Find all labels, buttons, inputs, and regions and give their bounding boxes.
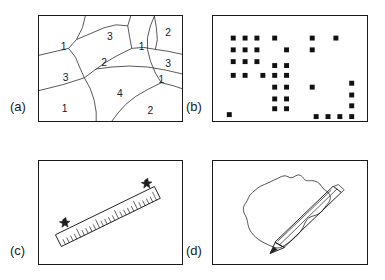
square-marker	[254, 36, 259, 41]
ruler-tick	[82, 230, 84, 235]
square-marker	[243, 36, 248, 41]
region-label: 2	[148, 105, 154, 116]
ruler-tick	[67, 238, 69, 243]
ruler-tick	[131, 206, 133, 211]
square-marker	[272, 63, 277, 68]
ruler-tick	[150, 197, 152, 202]
ruler-tick	[74, 234, 76, 239]
ruler-tick	[143, 201, 145, 206]
ruler-tick	[109, 217, 111, 222]
ruler-tick-group	[63, 192, 156, 244]
region-label: 3	[107, 31, 113, 42]
square-marker	[310, 47, 315, 52]
square-marker	[284, 63, 289, 68]
panel-label-d: (d)	[186, 243, 202, 258]
square-marker	[272, 106, 277, 111]
square-marker	[284, 85, 289, 90]
freehand-outline	[243, 175, 330, 248]
star-mark-lower-left	[60, 218, 70, 228]
ruler-tick	[93, 225, 95, 230]
ruler-tick	[128, 208, 130, 213]
ruler-tick	[77, 229, 81, 237]
region-label: 1	[61, 41, 67, 52]
square-marker	[254, 59, 259, 64]
ruler	[56, 187, 161, 247]
ruler-tick	[112, 216, 114, 221]
ruler-tick	[153, 192, 157, 200]
square-marker	[272, 85, 277, 90]
ruler-tick	[120, 212, 122, 217]
star-mark-upper-right	[141, 178, 151, 188]
square-marker	[272, 96, 277, 101]
panel-label-c: (c)	[10, 243, 25, 258]
square-marker	[231, 47, 236, 52]
square-marker	[349, 81, 354, 86]
region-label: 3	[63, 72, 69, 83]
square-marker	[284, 96, 289, 101]
square-marker	[231, 36, 236, 41]
square-marker	[272, 36, 277, 41]
ruler-tick	[139, 203, 141, 208]
ruler-tick	[134, 201, 138, 209]
square-marker	[349, 93, 354, 98]
ruler-tick	[124, 210, 126, 215]
square-marker	[333, 36, 338, 41]
region-label: 1	[139, 41, 145, 52]
square-marker	[243, 59, 248, 64]
square-marker	[349, 114, 354, 119]
square-marker	[243, 47, 248, 52]
square-marker	[260, 73, 265, 78]
square-marker	[310, 36, 315, 41]
ruler-tick	[63, 240, 65, 245]
panel-d-pencil-outline-scene	[213, 161, 367, 264]
ruler-tick	[105, 219, 107, 224]
square-marker	[227, 112, 232, 117]
region-label: 2	[165, 27, 171, 38]
panel-b-marker-scatter	[213, 16, 367, 121]
square-marker	[231, 73, 236, 78]
square-marker	[349, 103, 354, 108]
square-marker	[337, 114, 342, 119]
marker-group	[227, 36, 354, 119]
ruler-tick	[86, 229, 88, 234]
ruler-tick	[90, 227, 92, 232]
panel-c-ruler-scene	[39, 161, 182, 264]
region-label: 3	[165, 58, 171, 69]
square-marker	[254, 47, 259, 52]
square-marker	[314, 114, 319, 119]
panel-a-frame: 1 3 2 1 2 3 3 4 1 1 2	[38, 15, 183, 122]
region-label: 1	[62, 103, 68, 114]
region-label: 2	[101, 57, 107, 68]
figure-root: (a) 1 3	[0, 0, 385, 280]
square-marker	[243, 73, 248, 78]
ruler-tick	[115, 211, 119, 219]
square-marker	[284, 47, 289, 52]
square-marker	[272, 73, 277, 78]
square-marker	[284, 73, 289, 78]
ruler-tick	[147, 199, 149, 204]
panel-a-region-map: 1 3 2 1 2 3 3 4 1 1 2	[39, 16, 182, 121]
square-marker	[310, 85, 315, 90]
square-marker	[326, 114, 331, 119]
region-label: 4	[117, 88, 123, 99]
panel-d-frame	[212, 160, 368, 265]
region-label: 1	[158, 75, 164, 86]
square-marker	[284, 106, 289, 111]
panel-c-frame	[38, 160, 183, 265]
ruler-tick	[71, 236, 73, 241]
ruler-tick	[101, 221, 103, 226]
panel-label-a: (a)	[10, 99, 26, 114]
panel-b-frame	[212, 15, 368, 122]
square-marker	[231, 59, 236, 64]
panel-label-b: (b)	[186, 99, 202, 114]
ruler-tick	[96, 220, 100, 228]
